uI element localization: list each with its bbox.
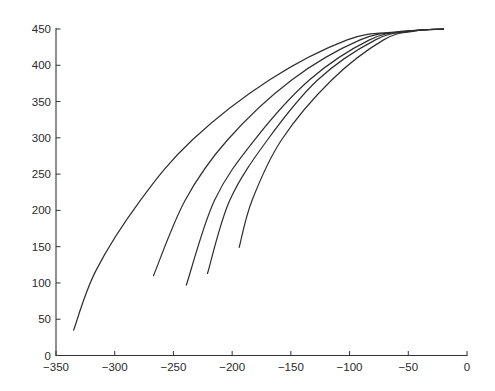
y-tick-label: 200 <box>32 204 51 216</box>
x-tick-label: −250 <box>160 361 186 373</box>
series-line-curve-2 <box>153 29 443 276</box>
x-tick-label: −300 <box>102 361 128 373</box>
x-tick-label: −200 <box>219 361 245 373</box>
line-chart: −350−300−250−200−150−100−500 05010015020… <box>0 0 495 391</box>
series-line-curve-5 <box>239 29 443 247</box>
y-tick-label: 300 <box>32 132 51 144</box>
y-tick-label: 50 <box>38 313 51 325</box>
y-tick-label: 100 <box>32 277 51 289</box>
y-tick-label: 400 <box>32 59 51 71</box>
series-line-curve-3 <box>186 29 443 285</box>
y-tick-label: 150 <box>32 241 51 253</box>
x-tick-label: 0 <box>464 361 470 373</box>
axes: −350−300−250−200−150−100−500 05010015020… <box>32 23 470 373</box>
x-tick-label: −350 <box>43 361 69 373</box>
x-tick-label: −50 <box>399 361 419 373</box>
series-line-curve-4 <box>207 29 443 274</box>
plot-series-group <box>74 29 444 330</box>
x-tick-label: −100 <box>337 361 363 373</box>
x-axis-ticks: −350−300−250−200−150−100−500 <box>43 351 470 373</box>
series-line-curve-1 <box>74 29 444 330</box>
y-tick-label: 450 <box>32 23 51 35</box>
x-tick-label: −150 <box>278 361 304 373</box>
y-tick-label: 0 <box>45 350 51 362</box>
y-tick-label: 350 <box>32 96 51 108</box>
y-tick-label: 250 <box>32 168 51 180</box>
